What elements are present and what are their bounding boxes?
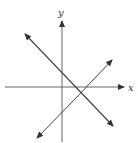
y-axis-label: y [57,7,64,18]
x-axis-label: x [128,82,134,93]
increasing-line [75,60,112,99]
increasing-line-lower [37,99,75,138]
coordinate-plane: x y [0,0,138,143]
